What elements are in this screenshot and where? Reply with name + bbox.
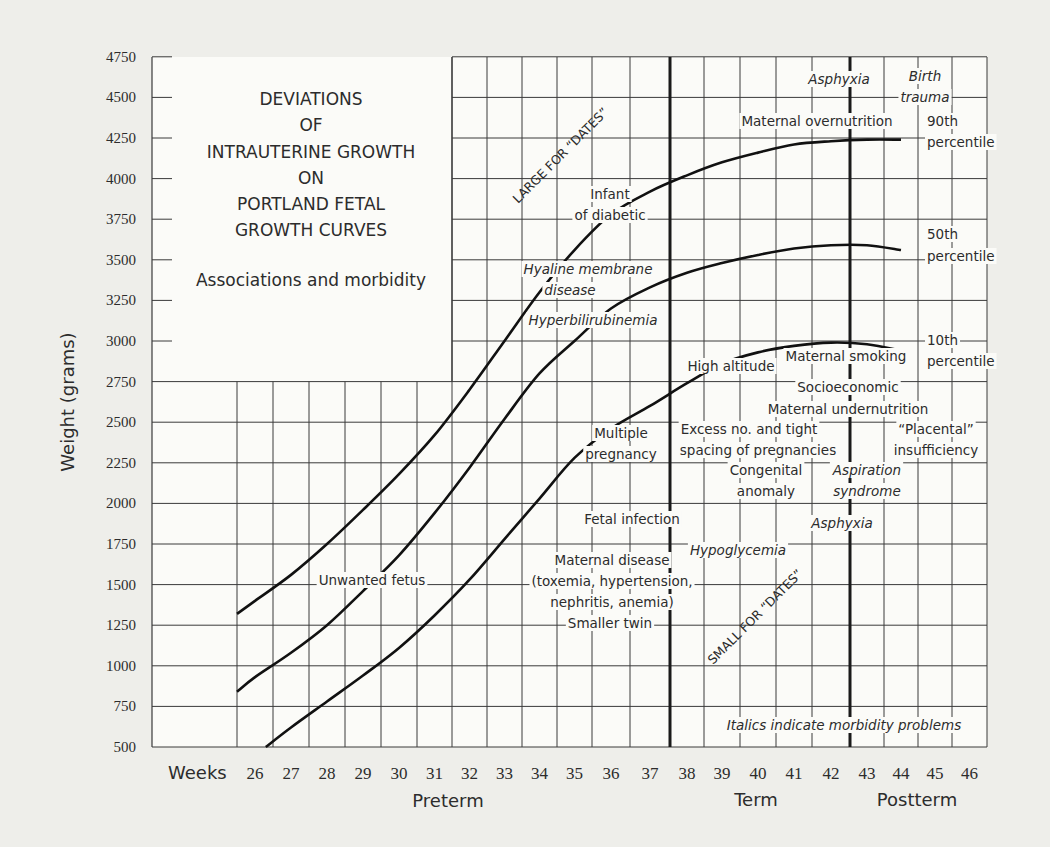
y-tick-label: 1000	[106, 658, 136, 674]
x-tick-label: 46	[961, 764, 978, 783]
y-tick-label: 1750	[106, 536, 136, 552]
title-line: GROWTH CURVES	[235, 220, 387, 240]
percentile-label: percentile	[927, 353, 995, 369]
annotation: Asphyxia	[810, 515, 872, 531]
y-tick-label: 4750	[106, 49, 136, 65]
annotation: “Placental”	[898, 421, 973, 437]
annotation: anomaly	[737, 483, 795, 499]
x-tick-label: 31	[426, 764, 443, 783]
x-tick-label: 27	[283, 764, 301, 783]
x-tick-label: 26	[247, 764, 264, 783]
annotation: Socioeconomic	[797, 379, 898, 395]
x-tick-label: 33	[496, 764, 513, 783]
x-tick-label: 37	[642, 764, 660, 783]
annotation: Congenital	[730, 462, 803, 478]
annotation: High altitude	[687, 358, 774, 374]
x-tick-label: 34	[531, 764, 549, 783]
annotation: syndrome	[833, 483, 900, 499]
percentile-label: 50th	[927, 226, 958, 242]
percentile-label: 90th	[927, 113, 958, 129]
growth-chart: 4750450042504000375035003250300027502500…	[0, 0, 1050, 847]
x-tick-label: 35	[566, 764, 583, 783]
annotation: trauma	[900, 89, 949, 105]
annotation: Unwanted fetus	[319, 572, 426, 588]
x-tick-label: 29	[355, 764, 372, 783]
x-tick-label: 32	[461, 764, 478, 783]
annotation: Hypoglycemia	[690, 542, 786, 558]
title-line: ON	[298, 168, 324, 188]
y-tick-label: 2750	[106, 374, 136, 390]
x-tick-label: 40	[750, 764, 767, 783]
annotation: spacing of pregnancies	[680, 442, 836, 458]
annotation: Maternal undernutrition	[768, 401, 929, 417]
y-tick-label: 4500	[106, 89, 136, 105]
y-tick-label: 3500	[106, 252, 136, 268]
italics-note: Italics indicate morbidity problems	[727, 717, 961, 733]
y-tick-label: 3750	[106, 211, 136, 227]
annotation: insufficiency	[894, 442, 978, 458]
period-label-postterm: Postterm	[877, 789, 957, 810]
annotation: Multiple	[594, 425, 648, 441]
y-axis-label: Weight (grams)	[57, 332, 78, 471]
y-tick-label: 3000	[106, 333, 136, 349]
title-line: DEVIATIONS	[259, 89, 362, 109]
annotation: Infant	[590, 186, 629, 202]
period-label-preterm: Preterm	[412, 790, 483, 811]
y-tick-label: 1500	[106, 577, 136, 593]
title-line: INTRAUTERINE GROWTH	[207, 142, 415, 162]
x-tick-label: 30	[391, 764, 408, 783]
y-tick-label: 3250	[106, 292, 136, 308]
title-line: PORTLAND FETAL	[237, 194, 386, 214]
annotation: Excess no. and tight	[681, 421, 818, 437]
y-tick-label: 2500	[106, 414, 136, 430]
y-tick-label: 750	[114, 698, 137, 714]
title-line: OF	[299, 115, 322, 135]
percentile-label: percentile	[927, 248, 995, 264]
annotation: Hyaline membrane	[524, 261, 653, 277]
x-tick-label: 45	[927, 764, 944, 783]
x-tick-label: 39	[714, 764, 731, 783]
annotation: Aspiration	[832, 462, 901, 478]
period-label-term: Term	[733, 789, 778, 810]
annotation: Maternal disease	[555, 552, 670, 568]
y-tick-label: 1250	[106, 617, 136, 633]
annotation: Smaller twin	[568, 615, 652, 631]
y-tick-label: 4000	[106, 171, 136, 187]
annotation: nephritis, anemia)	[550, 594, 674, 610]
y-tick-label: 4250	[106, 130, 136, 146]
chart-subtitle: Associations and morbidity	[196, 270, 426, 290]
annotation: Hyperbilirubinemia	[529, 312, 658, 328]
percentile-label: percentile	[927, 134, 995, 150]
x-tick-label: 36	[603, 764, 620, 783]
annotation: Maternal smoking	[786, 348, 907, 364]
percentile-label: 10th	[927, 332, 958, 348]
y-tick-label: 2250	[106, 455, 136, 471]
x-tick-label: 42	[823, 764, 840, 783]
annotation: of diabetic	[574, 207, 645, 223]
x-tick-label: 41	[786, 764, 803, 783]
x-tick-label: 44	[893, 764, 911, 783]
x-tick-label: 38	[679, 764, 696, 783]
annotation: Asphyxia	[807, 71, 869, 87]
x-tick-label: 28	[319, 764, 336, 783]
annotation: disease	[544, 282, 595, 298]
annotation: Birth	[909, 68, 941, 84]
annotation: Maternal overnutrition	[741, 113, 892, 129]
annotation: pregnancy	[585, 446, 657, 462]
y-tick-label: 2000	[106, 495, 136, 511]
annotation: Fetal infection	[584, 511, 680, 527]
y-tick-label: 500	[114, 739, 137, 755]
annotation: (toxemia, hypertension,	[531, 573, 692, 589]
x-tick-label: 43	[859, 764, 876, 783]
x-axis-label: Weeks	[168, 762, 227, 783]
